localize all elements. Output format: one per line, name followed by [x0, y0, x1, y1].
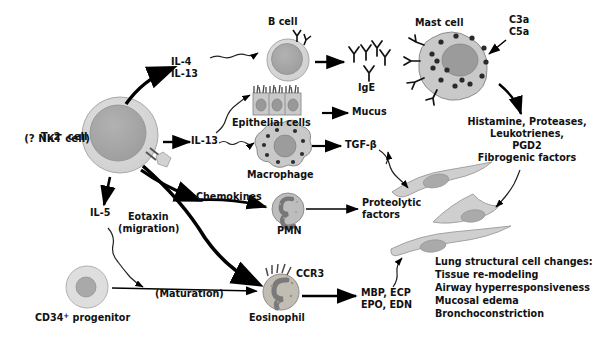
outcome-title: Lung structural cell changes:: [435, 257, 593, 268]
arrow-c3a-c5a-to-mast: [489, 40, 506, 54]
eosinophil-label: Eosinophil: [249, 313, 305, 324]
outcome-item-1: Airway hyperresponsiveness: [435, 283, 590, 294]
b-cell-graphic: [267, 30, 311, 81]
il13-top-label: IL-13: [171, 69, 198, 80]
mast-cell-label: Mast cell: [415, 18, 463, 29]
outcome-item-3: Bronchoconstriction: [435, 309, 544, 320]
eotaxin-label-line2: (migration): [118, 224, 179, 235]
il5-label: IL-5: [90, 208, 110, 219]
fibroblast-graphic-1: [392, 162, 492, 197]
mast-output-line3: PGD2: [465, 141, 589, 152]
arrow-mast-to-mediators: [499, 84, 521, 114]
diagram-canvas: TH2 cell (? NKT cell) B cell IgE Mast ce…: [0, 0, 605, 337]
c3a-label: C3a: [509, 15, 529, 26]
eos-granule-label-line2: EPO, EDN: [361, 300, 412, 311]
cd34-progenitor-label: CD34+ progenitor: [35, 313, 130, 324]
c5a-label: C5a: [509, 27, 529, 38]
macrophage-label: Macrophage: [247, 170, 314, 181]
eotaxin-label-line1: Eotaxin: [128, 212, 169, 223]
th2-cell-sublabel: (? NKT cell): [10, 133, 104, 144]
cd34-rest: progenitor: [69, 312, 130, 323]
cd34-progenitor-graphic: [66, 266, 108, 308]
fibroblast-graphic-2: [433, 194, 499, 224]
mast-output-line2: Leukotrienes,: [465, 129, 589, 140]
ige-antibodies-graphic: [349, 41, 390, 81]
fibroblast-graphic-3: [391, 226, 511, 256]
outcome-item-0: Tissue re-modeling: [435, 270, 538, 281]
ccr3-label: CCR3: [296, 269, 324, 280]
eos-granule-label-line1: MBP, ECP: [361, 288, 411, 299]
maturation-label: (Maturation): [155, 289, 224, 300]
mucus-label: Mucus: [352, 107, 387, 118]
proteolytic-label-line2: factors: [362, 210, 400, 221]
mast-cell-graphic: [404, 32, 489, 105]
arrow-th2-to-chemokines: [141, 170, 196, 199]
epithelial-cells-label: Epithelial cells: [232, 118, 311, 129]
proteolytic-label-line1: Proteolytic: [362, 198, 421, 209]
arrow-th2-to-il5: [104, 177, 110, 205]
epithelial-cells-graphic: [253, 85, 301, 115]
il13-mid-label: IL-13: [191, 136, 218, 147]
pmn-graphic: [272, 193, 304, 228]
il4-label: IL-4: [171, 57, 191, 68]
b-cell-label: B cell: [268, 17, 297, 28]
outcome-item-2: Mucosal edema: [435, 296, 519, 307]
cd34-main: CD34: [35, 312, 63, 323]
tgfb-label: TGF-β: [345, 140, 377, 151]
eosinophil-graphic: [263, 264, 299, 310]
ige-label: IgE: [358, 83, 375, 94]
chemokines-label: Chemokines: [196, 192, 262, 203]
mast-output-line4: Fibrogenic factors: [465, 153, 589, 164]
pmn-label: PMN: [277, 226, 302, 237]
mast-output-line1: Histamine, Proteases,: [465, 117, 589, 128]
